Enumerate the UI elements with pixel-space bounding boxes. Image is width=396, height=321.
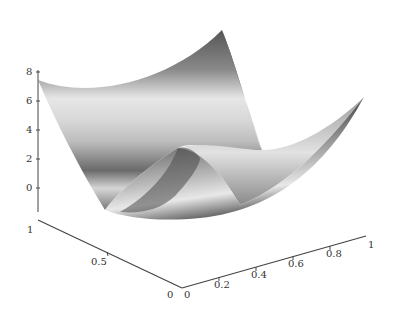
x-tick-1: 1 (368, 239, 374, 250)
x-tick-0-4: 0.4 (251, 269, 267, 280)
z-tick-6: 6 (26, 95, 32, 106)
z-tick-8: 8 (26, 66, 32, 77)
x-tick-0-8: 0.8 (326, 248, 342, 259)
y-tick-0: 0 (167, 289, 173, 300)
z-tick-2: 2 (26, 153, 32, 164)
z-tick-0: 0 (26, 182, 32, 193)
x-tick-0-2: 0.2 (214, 279, 230, 290)
x-axis: 0 0.2 0.4 0.6 0.8 1 (182, 236, 374, 300)
x-tick-0: 0 (184, 289, 190, 300)
y-tick-0-5: 0.5 (91, 256, 107, 267)
surface-plot: 8 6 4 2 0 1 0.5 0 0 0.2 0.4 0.6 0.8 1 (0, 0, 396, 321)
y-axis: 1 0.5 0 (27, 220, 182, 300)
z-tick-4: 4 (26, 124, 32, 135)
x-tick-0-6: 0.6 (288, 258, 304, 269)
z-axis: 8 6 4 2 0 (26, 66, 40, 212)
y-tick-1: 1 (27, 224, 33, 235)
